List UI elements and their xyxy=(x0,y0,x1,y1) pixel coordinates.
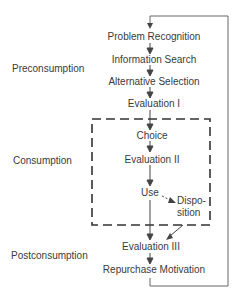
step-evaluation-3: Evaluation III xyxy=(122,241,180,253)
step-evaluation-1: Evaluation I xyxy=(128,98,180,110)
use-to-disposition-arrow xyxy=(162,196,176,203)
phase-label-consumption: Consumption xyxy=(13,155,72,167)
phase-label-preconsumption: Preconsumption xyxy=(12,63,84,75)
step-disposition-line2: sition xyxy=(177,207,200,219)
step-use: Use xyxy=(141,187,159,199)
step-repurchase-motivation: Repurchase Motivation xyxy=(103,264,205,276)
step-disposition-line1: Dispo- xyxy=(177,195,206,207)
step-choice: Choice xyxy=(136,130,167,142)
step-alternative-selection: Alternative Selection xyxy=(108,76,199,88)
step-information-search: Information Search xyxy=(112,54,197,66)
step-problem-recognition: Problem Recognition xyxy=(108,31,201,43)
disposition-to-eval3-arrow xyxy=(166,225,183,240)
step-evaluation-2: Evaluation II xyxy=(124,154,179,166)
phase-label-postconsumption: Postconsumption xyxy=(11,250,88,262)
